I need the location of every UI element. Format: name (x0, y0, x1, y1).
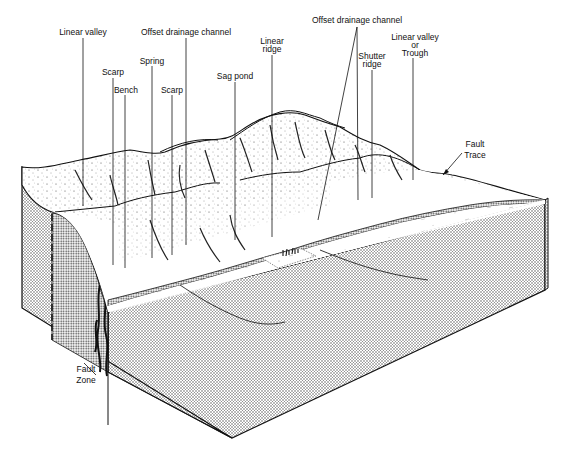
label-linear-valley: Linear valley (59, 27, 107, 37)
label-sag-pond: Sag pond (217, 71, 254, 81)
label-linear-valley-trough-line3: Trough (402, 48, 429, 58)
fault-block-diagram: Linear valley Offset drainage channel Of… (0, 0, 568, 458)
label-bench: Bench (114, 85, 138, 95)
label-offset-drainage-channel-left: Offset drainage channel (141, 27, 231, 37)
diagram-canvas: Linear valley Offset drainage channel Of… (0, 0, 568, 458)
label-shutter-ridge-line2: ridge (363, 59, 382, 69)
label-linear-ridge-line2: ridge (263, 44, 282, 54)
label-fault-zone-line1: Fault (77, 364, 97, 374)
label-fault-trace-line1: Fault (466, 139, 486, 149)
label-fault-zone-line2: Zone (76, 375, 96, 385)
block-right-face (545, 198, 548, 290)
label-scarp-right: Scarp (161, 85, 183, 95)
label-scarp-left: Scarp (102, 67, 124, 77)
label-offset-drainage-channel-right: Offset drainage channel (312, 15, 402, 25)
label-spring: Spring (140, 56, 165, 66)
label-fault-trace-line2: Trace (464, 150, 486, 160)
